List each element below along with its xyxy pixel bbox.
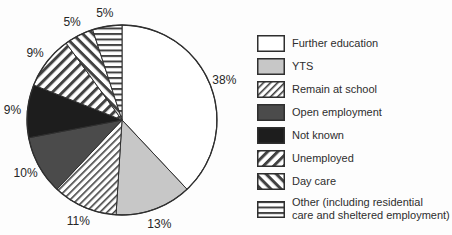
legend-swatch (257, 58, 285, 75)
slice-percentage-label: 5% (96, 6, 114, 20)
legend-swatch (257, 173, 285, 190)
pie-chart-figure: 38%13%11%10%9%9%5%5% Further educationYT… (0, 0, 452, 235)
legend-swatch (257, 201, 285, 218)
legend-label-line: YTS (292, 60, 313, 73)
legend-item: Not known (257, 127, 452, 144)
legend-swatch (257, 127, 285, 144)
legend-label: YTS (292, 60, 313, 73)
legend-swatch (257, 35, 285, 52)
legend-label-line: care and sheltered employment) (292, 209, 450, 222)
slice-percentage-label: 9% (4, 103, 22, 117)
legend-item: Remain at school (257, 81, 452, 98)
legend-item: Further education (257, 35, 452, 52)
legend-label: Not known (292, 129, 344, 142)
slice-percentage-label: 38% (212, 73, 236, 87)
legend-item: Open employment (257, 104, 452, 121)
legend-swatch (257, 104, 285, 121)
legend-label: Open employment (292, 106, 382, 119)
legend-label-line: Unemployed (292, 152, 354, 165)
chart-legend: Further educationYTSRemain at schoolOpen… (257, 35, 452, 228)
legend-label-line: Not known (292, 129, 344, 142)
legend-label-line: Open employment (292, 106, 382, 119)
slice-percentage-label: 10% (14, 166, 38, 180)
slice-percentage-label: 11% (67, 214, 90, 228)
legend-label-line: Day care (292, 175, 336, 188)
legend-item: Unemployed (257, 150, 452, 167)
legend-label-line: Remain at school (292, 83, 377, 96)
legend-item: YTS (257, 58, 452, 75)
legend-label: Further education (292, 37, 378, 50)
slice-percentage-label: 13% (147, 217, 171, 231)
legend-label-line: Further education (292, 37, 378, 50)
pie (27, 25, 217, 215)
legend-label: Day care (292, 175, 336, 188)
legend-swatch (257, 150, 285, 167)
slice-percentage-label: 5% (63, 15, 81, 29)
legend-item: Other (including residentialcare and she… (257, 196, 452, 222)
legend-label: Unemployed (292, 152, 354, 165)
legend-label-line: Other (including residential (292, 196, 450, 209)
legend-swatch (257, 81, 285, 98)
slice-percentage-label: 9% (26, 46, 44, 60)
legend-item: Day care (257, 173, 452, 190)
legend-label: Remain at school (292, 83, 377, 96)
legend-label: Other (including residentialcare and she… (292, 196, 450, 222)
